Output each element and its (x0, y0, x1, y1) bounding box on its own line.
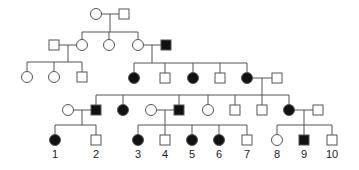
affected-female-icon (242, 73, 253, 84)
unaffected-female-icon (133, 40, 144, 51)
affected-female-icon (118, 105, 129, 116)
individual-number-label: 7 (244, 148, 250, 160)
individual-number-label: 3 (135, 148, 141, 160)
affected-male-icon (299, 135, 309, 145)
affected-male-icon (161, 40, 171, 50)
unaffected-male-icon (77, 72, 87, 82)
unaffected-male-icon (215, 73, 225, 83)
unaffected-male-icon (230, 105, 240, 115)
unaffected-male-icon (257, 105, 267, 115)
individual-number-label: 2 (93, 148, 99, 160)
unaffected-female-icon (146, 105, 157, 116)
affected-female-icon (187, 135, 198, 146)
unaffected-male-icon (119, 9, 129, 19)
affected-male-icon (91, 105, 101, 115)
affected-female-icon (214, 135, 225, 146)
unaffected-female-icon (77, 40, 88, 51)
relationship-lines (27, 14, 332, 135)
affected-female-icon (284, 105, 295, 116)
individual-number-label: 1 (52, 148, 58, 160)
unaffected-female-icon (272, 135, 283, 146)
unaffected-male-icon (160, 73, 170, 83)
unaffected-male-icon (91, 135, 101, 145)
unaffected-male-icon (313, 105, 323, 115)
affected-male-icon (174, 105, 184, 115)
individual-number-label: 8 (274, 148, 280, 160)
unaffected-female-icon (104, 40, 115, 51)
individual-number-label: 10 (326, 148, 338, 160)
pedigree-chart: 12345678910 (0, 0, 359, 170)
unaffected-female-icon (203, 105, 214, 116)
individual-number-label: 4 (162, 148, 168, 160)
pedigree-diagram: 12345678910 (0, 0, 359, 170)
unaffected-male-icon (242, 135, 252, 145)
individual-labels: 12345678910 (52, 148, 338, 160)
unaffected-female-icon (49, 72, 60, 83)
individual-number-label: 5 (189, 148, 195, 160)
individual-number-label: 9 (301, 148, 307, 160)
unaffected-female-icon (63, 105, 74, 116)
unaffected-male-icon (272, 73, 282, 83)
individual-number-label: 6 (216, 148, 222, 160)
unaffected-male-icon (327, 135, 337, 145)
affected-female-icon (188, 73, 199, 84)
unaffected-female-icon (91, 9, 102, 20)
unaffected-male-icon (49, 40, 59, 50)
affected-female-icon (133, 135, 144, 146)
unaffected-male-icon (160, 135, 170, 145)
unaffected-female-icon (22, 72, 33, 83)
affected-female-icon (50, 135, 61, 146)
affected-female-icon (129, 73, 140, 84)
